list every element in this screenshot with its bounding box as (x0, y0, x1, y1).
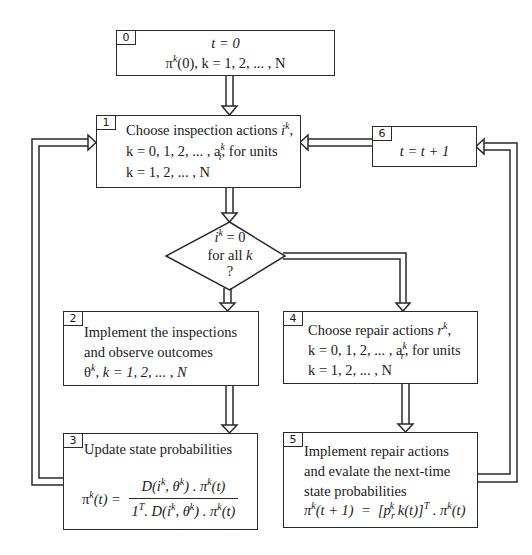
arrow-box6-to-box1 (300, 135, 372, 150)
arrow-box4-to-box5 (398, 384, 413, 432)
box2-line3: θk, k = 1, 2, ... , N (84, 362, 187, 382)
arrow-box0-to-box1 (222, 76, 237, 115)
box3-numerator: D(ik, θk) . πk(t) (129, 476, 239, 499)
box3-equation: πk(t) = D(ik, θk) . πk(t) 1T. D(ik, θk) … (82, 476, 238, 521)
arrow-box2-to-box3 (222, 386, 237, 433)
box-1-choose-inspection: 1 Choose inspection actions ik, k = 0, 1… (96, 115, 301, 188)
box-5-implement-repair: 5 Implement repair actions and evalate t… (283, 432, 478, 528)
box2-line2: and observe outcomes (84, 342, 213, 362)
arrow-decision-to-box4 (283, 253, 410, 311)
box1-line3: k = 1, 2, ... , N (126, 162, 210, 182)
step-number-3: 3 (63, 433, 83, 448)
box4-line3: k = 1, 2, ... , N (308, 360, 392, 380)
step-number-6: 6 (372, 126, 392, 141)
decision-label: ik = 0 for all k ? (180, 228, 280, 278)
box3-title: Update state probabilities (84, 439, 232, 459)
box-0-initialize: 0 t = 0 πk(0), k = 1, 2, ... , N (116, 30, 335, 76)
arrow-decision-to-box2 (220, 288, 235, 311)
step-number-4: 4 (283, 311, 303, 326)
decision-line1: ik = 0 (180, 228, 280, 246)
box3-denominator: 1T. D(ik, θk) . πk(t) (129, 499, 239, 521)
box1-line1: Choose inspection actions ik, (126, 120, 293, 140)
box5-line1: Implement repair actions (304, 441, 449, 461)
box0-line1: t = 0 (117, 33, 334, 53)
box3-lhs: πk(t) = (82, 491, 121, 507)
box-6-increment-time: 6 t = t + 1 (372, 126, 477, 167)
box6-line1: t = t + 1 (373, 141, 476, 161)
box0-line2: πk(0), k = 1, 2, ... , N (117, 53, 334, 73)
box1-line2: k = 0, 1, 2, ... , aki, for units (126, 141, 278, 161)
step-number-1: 1 (96, 115, 116, 130)
step-number-5: 5 (283, 432, 303, 447)
box5-line2: and evalate the next-time (304, 461, 450, 481)
box2-line1: Implement the inspections (84, 322, 237, 342)
box4-line2: k = 0, 1, 2, ... , akr, for units (308, 340, 461, 360)
box3-fraction: D(ik, θk) . πk(t) 1T. D(ik, θk) . πk(t) (129, 476, 239, 521)
box4-line1: Choose repair actions rk, (308, 320, 451, 340)
arrow-box1-to-decision (222, 188, 237, 222)
box-2-implement-inspections: 2 Implement the inspections and observe … (63, 311, 259, 386)
box5-line3: state probabilities (304, 481, 407, 501)
arrow-box5-to-box6 (476, 139, 517, 482)
decision-line2: for all k (180, 246, 280, 264)
step-number-2: 2 (63, 311, 83, 326)
decision-line3: ? (180, 264, 280, 278)
box-4-choose-repair: 4 Choose repair actions rk, k = 0, 1, 2,… (283, 311, 478, 384)
box-3-update-probabilities: 3 Update state probabilities πk(t) = D(i… (63, 433, 258, 530)
box5-equation: πk(t + 1) = [prk k(t)]T . πk(t) (304, 500, 465, 520)
